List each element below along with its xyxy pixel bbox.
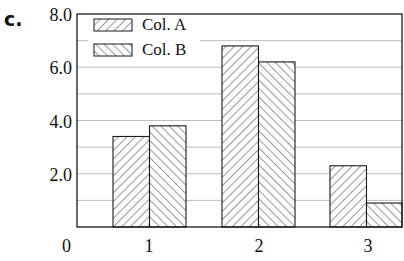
- bar-col-b-cat-2: [259, 62, 296, 227]
- y-tick-label: 2.0: [50, 165, 73, 185]
- y-tick-label: 6.0: [50, 58, 73, 78]
- panel-label: c.: [4, 8, 22, 30]
- legend-label-col-b: Col. B: [142, 40, 186, 59]
- x-tick-label: 1: [145, 236, 154, 256]
- y-tick-label: 4.0: [50, 112, 73, 132]
- bar-chart: c. 02.04.06.08.0 123 Col. A Col. B: [0, 0, 404, 261]
- y-tick-label: 8.0: [50, 5, 73, 25]
- legend-swatch-col-b: [94, 44, 132, 56]
- legend: Col. A Col. B: [88, 15, 200, 65]
- bars: [113, 46, 402, 227]
- x-tick-label: 3: [364, 236, 373, 256]
- bar-col-a-cat-2: [222, 46, 259, 227]
- y-tick-label: 0: [62, 236, 71, 256]
- bar-col-a-cat-1: [113, 136, 150, 227]
- legend-swatch-col-a: [94, 19, 132, 31]
- y-axis-ticks: 02.04.06.08.0: [50, 5, 73, 256]
- bar-col-b-cat-1: [150, 126, 187, 227]
- legend-label-col-a: Col. A: [142, 15, 187, 34]
- bar-col-a-cat-3: [330, 166, 367, 227]
- bar-col-b-cat-3: [367, 203, 403, 227]
- x-tick-label: 2: [255, 236, 264, 256]
- x-axis-ticks: 123: [145, 236, 373, 256]
